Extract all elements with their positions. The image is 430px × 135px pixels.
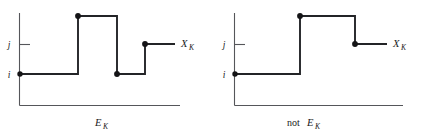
right-dot-top	[297, 13, 303, 19]
left-dot-start-i	[17, 71, 22, 76]
right-axis-label-j: j	[221, 40, 226, 50]
left-curve-label-x: X	[180, 38, 188, 49]
left-dot-return-i	[114, 71, 120, 77]
right-caption-symbol: E	[306, 117, 314, 128]
right-axis-label-i: i	[223, 70, 226, 80]
two-panel-figure: j i X K E K j i	[0, 0, 430, 135]
left-curve-label-subscript: K	[188, 43, 195, 52]
right-step-path	[235, 16, 387, 74]
right-caption-subscript: K	[314, 122, 321, 131]
left-caption-symbol: E	[94, 117, 102, 128]
left-axis-label-i: i	[8, 70, 11, 80]
panel-event-not-ek: j i X K not E K	[215, 0, 430, 135]
right-caption-not: not	[287, 117, 300, 128]
right-panel-plot: j i X K not E K	[215, 0, 430, 135]
left-panel-plot: j i X K E K	[0, 0, 215, 135]
right-curve-label-x: X	[392, 38, 400, 49]
right-dot-start-i	[232, 71, 237, 76]
right-curve-label-subscript: K	[400, 43, 407, 52]
left-step-path	[20, 16, 175, 74]
left-dot-j	[142, 41, 148, 47]
right-dot-j	[352, 41, 358, 47]
left-axis-label-j: j	[6, 40, 11, 50]
panel-event-ek: j i X K E K	[0, 0, 215, 135]
left-dot-top	[75, 13, 81, 19]
left-caption-subscript: K	[102, 122, 109, 131]
